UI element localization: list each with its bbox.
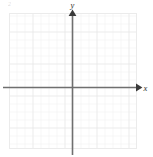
coordinate-grid-figure: 2 x y bbox=[0, 0, 153, 157]
y-axis-label: y bbox=[70, 0, 75, 10]
coordinate-plane-svg: x y bbox=[0, 0, 153, 157]
y-axis-arrowhead bbox=[69, 10, 77, 16]
x-axis-arrowhead bbox=[136, 84, 142, 92]
x-axis-label: x bbox=[143, 83, 148, 93]
